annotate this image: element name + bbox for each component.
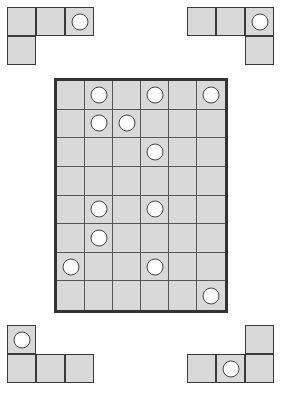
- board-cell[interactable]: [197, 167, 225, 196]
- piece-cell: [7, 7, 36, 36]
- circle-icon: [251, 13, 268, 30]
- piece-cell: [187, 7, 216, 36]
- piece-cell: [65, 7, 94, 36]
- circle-icon: [13, 331, 30, 348]
- board-cell[interactable]: [85, 167, 113, 196]
- puzzle-board: [54, 78, 228, 313]
- board-cell[interactable]: [113, 196, 141, 225]
- piece-cell: [245, 7, 274, 36]
- board-cell[interactable]: [197, 224, 225, 253]
- piece-cell: [216, 354, 245, 383]
- board-cell[interactable]: [57, 138, 85, 167]
- board-cell[interactable]: [57, 224, 85, 253]
- board-cell[interactable]: [85, 196, 113, 225]
- board-cell[interactable]: [113, 138, 141, 167]
- circle-icon: [90, 201, 107, 218]
- board-cell[interactable]: [169, 138, 197, 167]
- board-cell[interactable]: [197, 81, 225, 110]
- circle-icon: [203, 287, 220, 304]
- board-cell[interactable]: [57, 281, 85, 310]
- board-cell[interactable]: [141, 138, 169, 167]
- board-cell[interactable]: [197, 196, 225, 225]
- board-cell[interactable]: [57, 253, 85, 282]
- board-cell[interactable]: [85, 81, 113, 110]
- piece-cell: [7, 36, 36, 65]
- piece-cell: [187, 354, 216, 383]
- circle-icon: [146, 201, 163, 218]
- board-cell[interactable]: [197, 110, 225, 139]
- circle-icon: [90, 115, 107, 132]
- board-cell[interactable]: [57, 167, 85, 196]
- board-cell[interactable]: [169, 224, 197, 253]
- board-cell[interactable]: [141, 81, 169, 110]
- board-cell[interactable]: [169, 81, 197, 110]
- board-cell[interactable]: [141, 167, 169, 196]
- board-cell[interactable]: [85, 253, 113, 282]
- board-cell[interactable]: [141, 224, 169, 253]
- circle-icon: [146, 258, 163, 275]
- board-cell[interactable]: [197, 281, 225, 310]
- piece-cell: [36, 354, 65, 383]
- board-cell[interactable]: [113, 167, 141, 196]
- piece-cell: [245, 325, 274, 354]
- circle-icon: [71, 13, 88, 30]
- board-cell[interactable]: [85, 281, 113, 310]
- circle-icon: [146, 144, 163, 161]
- board-cell[interactable]: [169, 281, 197, 310]
- board-cell[interactable]: [169, 196, 197, 225]
- piece-cell: [216, 7, 245, 36]
- board-cell[interactable]: [113, 281, 141, 310]
- board-cell[interactable]: [85, 138, 113, 167]
- piece-cell: [7, 325, 36, 354]
- board-cell[interactable]: [113, 110, 141, 139]
- board-cell[interactable]: [141, 281, 169, 310]
- board-cell[interactable]: [113, 81, 141, 110]
- board-cell[interactable]: [141, 196, 169, 225]
- piece-cell: [36, 7, 65, 36]
- piece-cell: [7, 354, 36, 383]
- circle-icon: [118, 115, 135, 132]
- board-cell[interactable]: [141, 253, 169, 282]
- board-cell[interactable]: [141, 110, 169, 139]
- piece-cell: [245, 36, 274, 65]
- circle-icon: [203, 86, 220, 103]
- board-cell[interactable]: [113, 224, 141, 253]
- board-cell[interactable]: [169, 110, 197, 139]
- circle-icon: [90, 229, 107, 246]
- board-cell[interactable]: [197, 253, 225, 282]
- circle-icon: [146, 86, 163, 103]
- board-cell[interactable]: [57, 81, 85, 110]
- board-cell[interactable]: [169, 167, 197, 196]
- board-cell[interactable]: [85, 110, 113, 139]
- board-cell[interactable]: [85, 224, 113, 253]
- board-cell[interactable]: [169, 253, 197, 282]
- board-cell[interactable]: [57, 196, 85, 225]
- piece-cell: [245, 354, 274, 383]
- circle-icon: [222, 360, 239, 377]
- board-cell[interactable]: [57, 110, 85, 139]
- board-cell[interactable]: [113, 253, 141, 282]
- board-cell[interactable]: [197, 138, 225, 167]
- circle-icon: [62, 258, 79, 275]
- piece-cell: [65, 354, 94, 383]
- circle-icon: [90, 86, 107, 103]
